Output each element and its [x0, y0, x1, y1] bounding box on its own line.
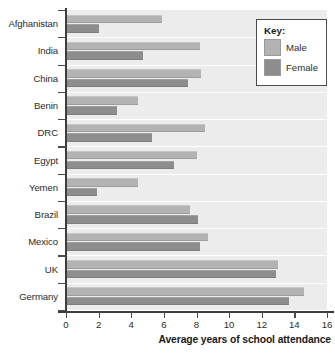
bar-male-india [66, 42, 200, 51]
band-separator [66, 174, 327, 175]
category-label-india: India [0, 45, 58, 56]
x-axis-tick [66, 312, 67, 318]
x-axis-tick [131, 312, 132, 318]
x-axis-tick-label: 12 [250, 319, 274, 330]
band-separator [66, 119, 327, 120]
x-axis-tick [197, 312, 198, 318]
x-axis-tick-label: 14 [282, 319, 306, 330]
legend-label-female: Female [286, 62, 318, 73]
bar-female-uk [66, 270, 276, 279]
x-axis-tick-label: 6 [152, 319, 176, 330]
bar-female-drc [66, 133, 152, 142]
x-axis-tick-label: 16 [315, 319, 335, 330]
bar-male-germany [66, 287, 304, 296]
category-label-benin: Benin [0, 100, 58, 111]
bar-male-china [66, 69, 201, 78]
y-axis-line [65, 8, 67, 312]
category-label-uk: UK [0, 264, 58, 275]
x-axis-tick [262, 312, 263, 318]
category-label-germany: Germany [0, 291, 58, 302]
band-separator [66, 146, 327, 147]
legend-entries: MaleFemale [264, 39, 326, 76]
y-axis-tick [58, 10, 66, 11]
bar-male-afghanistan [66, 15, 162, 24]
category-label-egypt: Egypt [0, 155, 58, 166]
y-axis-tick [58, 146, 66, 147]
x-axis-tick [294, 312, 295, 318]
chart-legend: Key: MaleFemale [256, 19, 327, 86]
bar-chart: AfghanistanIndiaChinaBeninDRCEgyptYemenB… [0, 0, 335, 354]
y-axis-tick [58, 228, 66, 229]
bar-male-yemen [66, 178, 138, 187]
y-axis-tick [58, 37, 66, 38]
x-axis-tick [327, 312, 328, 318]
x-axis-tick-label: 4 [119, 319, 143, 330]
bar-male-drc [66, 124, 205, 133]
legend-swatch-male [264, 39, 281, 56]
bar-female-brazil [66, 215, 198, 224]
y-axis-tick [58, 255, 66, 256]
y-axis-tick [58, 65, 66, 66]
y-axis-tick [58, 310, 66, 311]
legend-swatch-female [264, 59, 281, 76]
bar-male-mexico [66, 233, 208, 242]
bar-male-egypt [66, 151, 197, 160]
x-axis-tick-label: 10 [217, 319, 241, 330]
bar-female-yemen [66, 188, 97, 197]
category-label-china: China [0, 73, 58, 84]
y-axis-tick [58, 283, 66, 284]
bar-female-afghanistan [66, 24, 99, 33]
legend-label-male: Male [286, 42, 307, 53]
band-separator [66, 228, 327, 229]
category-label-yemen: Yemen [0, 182, 58, 193]
y-axis-tick [58, 92, 66, 93]
bar-male-uk [66, 260, 278, 269]
bar-female-benin [66, 106, 117, 115]
category-label-mexico: Mexico [0, 236, 58, 247]
x-axis-tick-label: 8 [185, 319, 209, 330]
bar-female-china [66, 79, 188, 88]
y-axis-tick [58, 174, 66, 175]
bar-male-brazil [66, 205, 190, 214]
x-axis-title: Average years of school attendance [0, 334, 331, 345]
x-axis-tick-label: 2 [87, 319, 111, 330]
band-separator [66, 92, 327, 93]
band-separator [66, 201, 327, 202]
x-axis-tick [99, 312, 100, 318]
bar-female-india [66, 51, 143, 60]
x-axis-tick [164, 312, 165, 318]
category-label-afghanistan: Afghanistan [0, 18, 58, 29]
x-axis-tick [229, 312, 230, 318]
y-axis-tick [58, 119, 66, 120]
bar-male-benin [66, 96, 138, 105]
legend-entry-female: Female [264, 59, 326, 76]
y-axis-tick [58, 201, 66, 202]
band-separator [66, 255, 327, 256]
x-axis-tick-label: 0 [54, 319, 78, 330]
band-separator [66, 283, 327, 284]
bar-female-mexico [66, 242, 200, 251]
legend-entry-male: Male [264, 39, 326, 56]
category-axis: AfghanistanIndiaChinaBeninDRCEgyptYemenB… [0, 10, 62, 310]
category-label-drc: DRC [0, 127, 58, 138]
bar-female-germany [66, 297, 289, 306]
bar-female-egypt [66, 161, 174, 170]
category-label-brazil: Brazil [0, 209, 58, 220]
legend-title: Key: [264, 25, 326, 36]
